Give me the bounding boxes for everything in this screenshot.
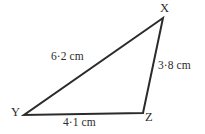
side-length-label-yz: 4·1 cm [63, 117, 96, 129]
triangle-outline [24, 18, 163, 115]
triangle-figure: X Y Z 6·2 cm 3·8 cm 4·1 cm [0, 0, 205, 134]
vertex-label-z: Z [145, 111, 153, 124]
side-length-label-yx: 6·2 cm [51, 51, 84, 63]
vertex-label-x: X [160, 2, 169, 15]
vertex-label-y: Y [11, 106, 20, 119]
side-length-label-xz: 3·8 cm [158, 60, 191, 72]
